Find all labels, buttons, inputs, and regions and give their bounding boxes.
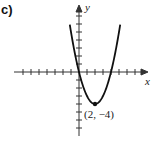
vertex-label: (2, −4) <box>84 108 114 121</box>
vertex-point <box>93 102 97 106</box>
y-axis-label: y <box>84 1 90 13</box>
parabola-plot: (2, −4) x y <box>0 0 161 150</box>
x-axis-label: x <box>144 75 150 87</box>
axes <box>14 5 148 136</box>
parabola-curve <box>70 25 120 104</box>
